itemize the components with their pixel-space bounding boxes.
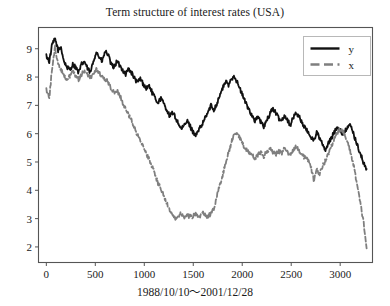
y-tick-label: 4: [27, 184, 33, 196]
x-tick-label: 500: [87, 268, 104, 280]
y-tick-label: 3: [27, 213, 33, 225]
y-tick-label: 2: [27, 241, 33, 253]
x-tick-label: 2500: [280, 268, 303, 280]
y-tick-label: 6: [27, 128, 33, 140]
x-tick-label: 0: [44, 268, 50, 280]
chart-figure: Term structure of interest rates (USA) 0…: [0, 0, 390, 306]
chart-legend: yx: [304, 37, 371, 76]
chart-plot-area: 05001000150020002500300023456789yx: [0, 0, 390, 306]
x-tick-label: 1500: [182, 268, 205, 280]
x-axis-caption: 1988/10/10～2001/12/28: [0, 283, 390, 299]
x-tick-label: 3000: [329, 268, 352, 280]
x-tick-label: 2000: [231, 268, 254, 280]
legend-box: [304, 37, 371, 76]
y-tick-label: 7: [27, 99, 33, 111]
y-tick-label: 5: [27, 156, 33, 168]
legend-label-x: x: [349, 59, 355, 71]
y-tick-label: 9: [27, 43, 33, 55]
legend-label-y: y: [349, 43, 355, 55]
y-tick-label: 8: [27, 71, 33, 83]
x-tick-label: 1000: [133, 268, 156, 280]
